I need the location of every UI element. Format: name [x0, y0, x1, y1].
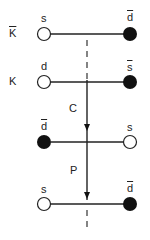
- row1-right-quark: d: [127, 12, 133, 23]
- row1-right-filled-circle-icon: [123, 27, 137, 41]
- meson-label-kbar: K: [9, 28, 16, 39]
- row1-left-quark: s: [41, 13, 47, 24]
- row3-left-filled-circle-icon: [37, 135, 51, 149]
- row4-left-quark: s: [41, 184, 47, 195]
- row3-left-quark: d: [41, 121, 47, 132]
- row2-left-open-circle-icon: [38, 76, 51, 89]
- row3-right-open-circle-icon: [124, 136, 137, 149]
- operation-label-c: C: [69, 103, 77, 114]
- row2-right-quark: s: [127, 62, 133, 73]
- row3-right-quark: s: [127, 122, 133, 133]
- symmetry-diagram: [0, 0, 150, 240]
- row4-right-filled-circle-icon: [123, 197, 137, 211]
- arrow-p-icon: [84, 192, 90, 199]
- row4-right-quark: d: [127, 183, 133, 194]
- arrow-c-icon: [84, 124, 90, 131]
- row2-left-quark: d: [41, 61, 47, 72]
- operation-label-p: P: [70, 165, 77, 176]
- row1-left-open-circle-icon: [38, 28, 51, 41]
- row4-left-open-circle-icon: [38, 198, 51, 211]
- row2-right-filled-circle-icon: [123, 75, 137, 89]
- meson-label-k: K: [9, 76, 16, 87]
